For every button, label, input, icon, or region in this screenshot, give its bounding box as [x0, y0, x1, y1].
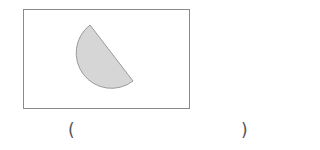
- answer-close-paren: ): [241, 120, 248, 140]
- answer-blank[interactable]: [82, 120, 237, 142]
- answer-open-paren: (: [68, 120, 75, 140]
- semicircle-shape: [76, 25, 133, 88]
